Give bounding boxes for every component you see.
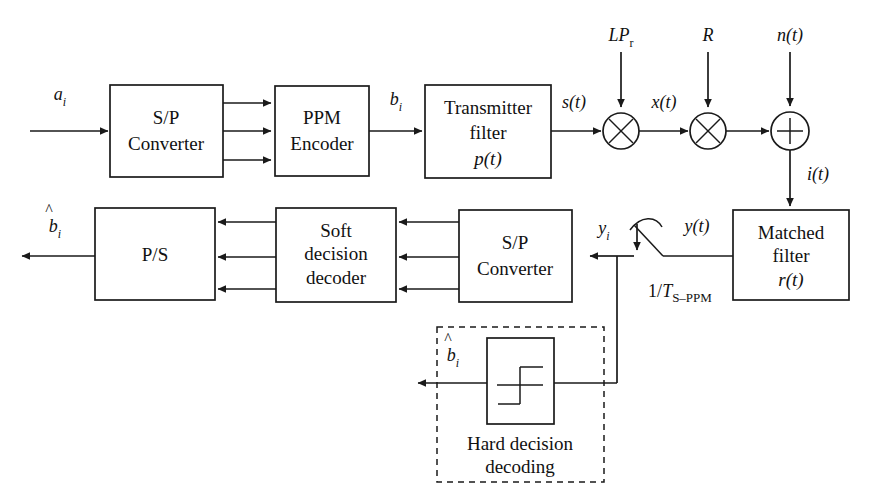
- hard-decision-label-line2: decoding: [485, 456, 555, 477]
- block-transmitter-filter-line3: p(t): [472, 148, 501, 170]
- label-y-t: y(t): [683, 216, 710, 237]
- label-lp-r: LPr: [607, 25, 633, 50]
- label-a-i: ai: [54, 84, 66, 109]
- label-y-i: yi: [596, 218, 609, 243]
- block-sp-converter-tx[interactable]: [110, 85, 223, 177]
- hat-accent-b-out: ^: [45, 201, 53, 218]
- block-ppm-encoder-line2: Encoder: [290, 133, 354, 154]
- block-soft-decision-line1: Soft: [320, 220, 352, 241]
- label-r-gain: R: [702, 25, 714, 45]
- label-b-i: bi: [390, 89, 402, 114]
- block-diagram-canvas: ai S/P Converter PPM Encoder bi Transmit…: [0, 0, 881, 502]
- sampler-arc-icon: [630, 219, 662, 230]
- block-ppm-encoder-line1: PPM: [303, 107, 341, 128]
- sampler-switch-arm[interactable]: [634, 225, 663, 256]
- label-i-t: i(t): [807, 164, 829, 185]
- block-matched-filter-line2: filter: [773, 245, 811, 266]
- label-sample-rate: 1/TS–PPM: [648, 281, 712, 305]
- block-sp-converter-rx[interactable]: [459, 210, 572, 302]
- block-transmitter-filter-line1: Transmitter: [444, 97, 533, 118]
- block-sp-converter-tx-line2: Converter: [128, 133, 205, 154]
- block-transmitter-filter-line2: filter: [470, 122, 508, 143]
- label-b-hat-hard: bi: [447, 345, 459, 370]
- hat-accent-b-hard: ^: [444, 330, 452, 347]
- label-s-t: s(t): [562, 92, 586, 113]
- block-matched-filter-line3: r(t): [778, 269, 803, 291]
- block-sp-converter-rx-line2: Converter: [477, 258, 554, 279]
- label-n-t: n(t): [777, 25, 803, 46]
- block-matched-filter-line1: Matched: [758, 222, 825, 243]
- hard-decision-label-line1: Hard decision: [467, 433, 574, 454]
- block-soft-decision-line3: decoder: [306, 267, 367, 288]
- block-sp-converter-tx-line1: S/P: [153, 107, 179, 128]
- block-soft-decision-line2: decision: [304, 243, 368, 264]
- block-sp-converter-rx-line1: S/P: [502, 232, 528, 253]
- label-x-t: x(t): [651, 92, 677, 113]
- block-ppm-encoder[interactable]: [275, 86, 369, 176]
- label-b-hat-out: bi: [49, 216, 61, 241]
- block-ps-converter-line1: P/S: [142, 244, 168, 265]
